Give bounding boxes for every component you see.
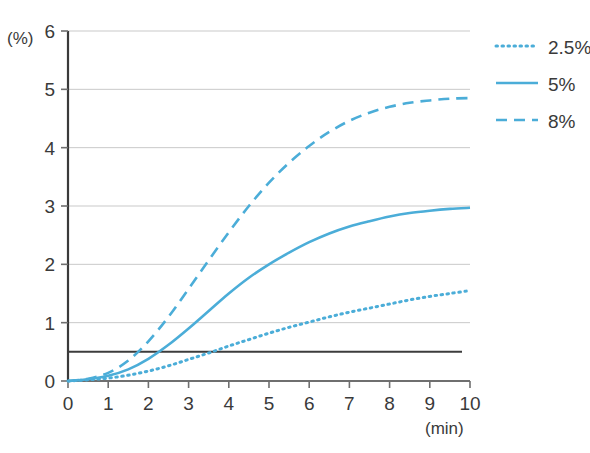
y-tick-label: 2 xyxy=(44,254,55,275)
x-tick-label: 1 xyxy=(103,393,114,414)
series-line-2.5 xyxy=(68,291,470,381)
x-tick-label: 5 xyxy=(264,393,275,414)
y-tick-label: 3 xyxy=(44,196,55,217)
x-axis-unit-label: (min) xyxy=(425,419,464,438)
x-tick-label: 0 xyxy=(63,393,74,414)
legend-label-5: 5% xyxy=(548,74,576,95)
x-tick-label: 6 xyxy=(304,393,315,414)
x-tick-label: 8 xyxy=(384,393,395,414)
y-axis-unit-label: (%) xyxy=(7,29,33,48)
y-tick-label: 4 xyxy=(44,138,55,159)
y-tick-label: 6 xyxy=(44,21,55,42)
series-line-8 xyxy=(68,98,470,381)
x-tick-label: 7 xyxy=(344,393,355,414)
y-tick-label: 5 xyxy=(44,79,55,100)
x-tick-labels: 012345678910 xyxy=(63,393,481,414)
y-tick-label: 1 xyxy=(44,313,55,334)
x-tick-label: 4 xyxy=(224,393,235,414)
data-series-group xyxy=(68,98,470,381)
x-tick-label: 9 xyxy=(425,393,436,414)
y-tick-label: 0 xyxy=(44,371,55,392)
series-line-5 xyxy=(68,208,470,381)
x-tick-label: 3 xyxy=(183,393,194,414)
chart-container: 012345678910 0123456 (%) (min) 2.5%5%8% xyxy=(0,0,590,453)
x-tick-label: 10 xyxy=(459,393,480,414)
line-chart: 012345678910 0123456 (%) (min) 2.5%5%8% xyxy=(0,0,590,453)
legend-label-2.5: 2.5% xyxy=(548,37,590,58)
x-tick-label: 2 xyxy=(143,393,154,414)
legend-label-8: 8% xyxy=(548,111,576,132)
x-axis-ticks xyxy=(68,381,470,388)
gridlines xyxy=(68,31,470,323)
y-tick-labels: 0123456 xyxy=(44,21,55,392)
chart-legend: 2.5%5%8% xyxy=(496,37,590,132)
